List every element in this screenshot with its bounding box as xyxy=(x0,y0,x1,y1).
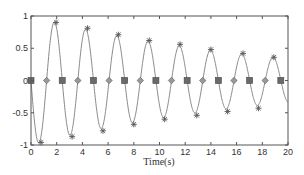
diamond-marker xyxy=(137,77,143,83)
x-axis-title: Time(s) xyxy=(143,156,174,168)
trough-star-marker xyxy=(225,108,231,114)
peak-star-marker xyxy=(53,19,59,25)
chart: 02468101214161820 10.50-0.5-1 Time(s) xyxy=(0,0,304,175)
diamond-marker xyxy=(43,77,49,83)
x-tick-label: 0 xyxy=(28,147,33,157)
y-tick-label: -1 xyxy=(20,140,28,150)
square-marker xyxy=(122,78,128,84)
trough-star-marker xyxy=(194,112,200,118)
trough-star-marker xyxy=(100,128,106,134)
x-tick-label: 4 xyxy=(80,147,85,157)
square-marker xyxy=(153,78,159,84)
x-tick-label: 12 xyxy=(180,147,190,157)
diamond-marker xyxy=(106,77,112,83)
trough-star-marker xyxy=(162,116,168,122)
peak-star-marker xyxy=(146,38,152,44)
x-tick-label: 18 xyxy=(257,147,267,157)
square-marker xyxy=(247,78,253,84)
peak-star-marker xyxy=(208,47,214,53)
square-marker xyxy=(184,78,190,84)
x-axis-ticks: 02468101214161820 xyxy=(28,16,293,157)
y-tick-label: 0.5 xyxy=(15,43,28,53)
square-marker xyxy=(59,78,65,84)
x-tick-label: 16 xyxy=(232,147,242,157)
y-tick-label: -0.5 xyxy=(12,108,28,118)
x-tick-label: 8 xyxy=(131,147,136,157)
diamond-marker xyxy=(168,77,174,83)
peak-star-marker xyxy=(177,41,183,47)
peak-star-marker xyxy=(115,32,121,38)
x-tick-label: 2 xyxy=(54,147,59,157)
trough-star-marker xyxy=(131,121,137,127)
x-tick-label: 20 xyxy=(283,147,293,157)
plot-area xyxy=(28,19,288,145)
square-marker xyxy=(215,78,221,84)
y-tick-label: 0 xyxy=(23,76,28,86)
square-marker xyxy=(278,78,284,84)
peak-star-marker xyxy=(271,54,277,60)
trough-star-marker xyxy=(255,105,261,111)
y-tick-label: 1 xyxy=(23,11,28,21)
diamond-marker xyxy=(231,77,237,83)
square-marker xyxy=(90,78,96,84)
diamond-marker xyxy=(75,77,81,83)
peak-star-marker xyxy=(240,50,246,56)
x-tick-label: 14 xyxy=(206,147,216,157)
peak-star-marker xyxy=(85,25,91,31)
diamond-marker xyxy=(200,77,206,83)
trough-star-marker xyxy=(69,134,75,140)
x-tick-label: 6 xyxy=(106,147,111,157)
diamond-marker xyxy=(262,77,268,83)
